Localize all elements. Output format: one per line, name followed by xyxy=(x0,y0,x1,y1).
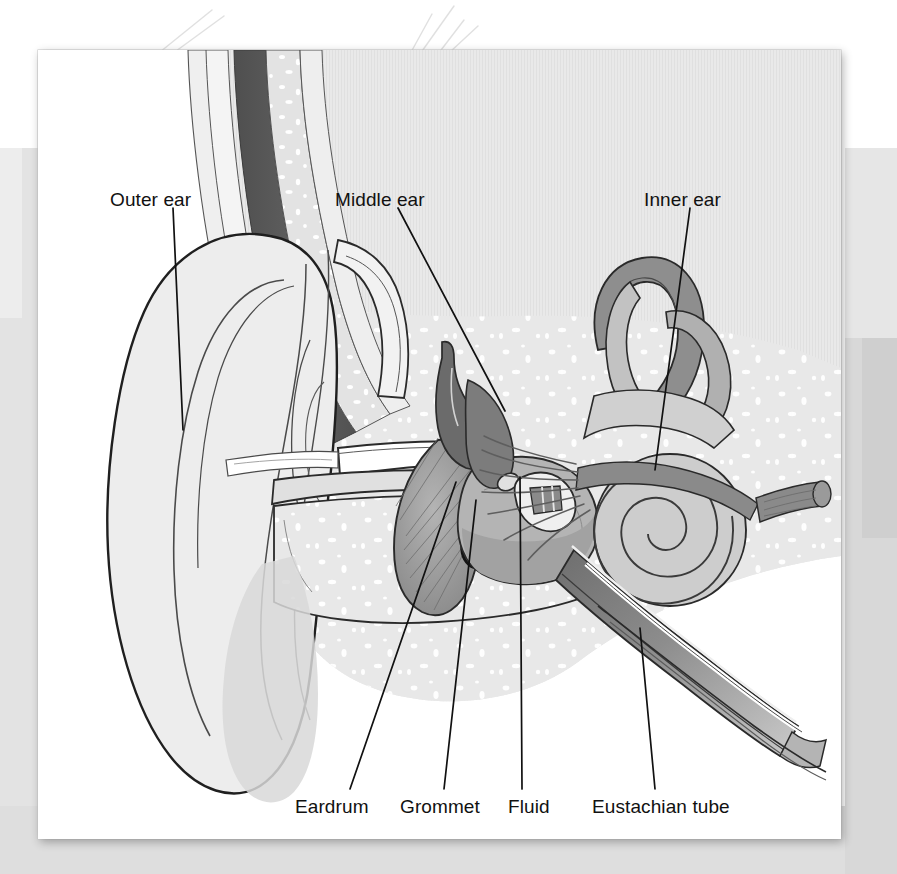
label-grommet: Grommet xyxy=(400,797,480,816)
background-band-left-light xyxy=(0,148,22,318)
label-eustachian-tube: Eustachian tube xyxy=(592,797,730,816)
label-outer-ear: Outer ear xyxy=(110,190,191,209)
background-band-right-mid xyxy=(862,338,897,538)
illustration-card: Outer ear Middle ear Inner ear Eardrum G… xyxy=(38,50,841,839)
background-band-right-top xyxy=(845,148,897,338)
label-inner-ear: Inner ear xyxy=(644,190,721,209)
ear-anatomy-illustration xyxy=(38,50,841,839)
label-fluid: Fluid xyxy=(508,797,550,816)
label-middle-ear: Middle ear xyxy=(335,190,425,209)
label-eardrum: Eardrum xyxy=(295,797,369,816)
figure-canvas: Outer ear Middle ear Inner ear Eardrum G… xyxy=(0,0,897,874)
